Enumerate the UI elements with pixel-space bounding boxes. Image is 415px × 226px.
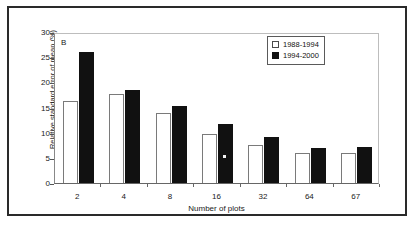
legend-swatch-filled-square-icon <box>272 52 279 59</box>
y-tick-label: 15 <box>26 105 50 113</box>
bar <box>218 124 233 183</box>
bar <box>248 145 263 183</box>
legend-item-label: 1988-1994 <box>283 40 319 49</box>
x-tick-label: 32 <box>258 192 267 201</box>
x-tick-label: 67 <box>351 192 360 201</box>
x-tick-mark <box>240 184 241 187</box>
x-tick-label: 8 <box>168 192 172 201</box>
y-tick-label: 0 <box>26 180 50 188</box>
bar <box>63 101 78 183</box>
x-tick-label: 64 <box>305 192 314 201</box>
bar <box>109 94 124 183</box>
x-tick-mark <box>379 184 380 187</box>
y-axis: Relative standard error of mean (%) 0510… <box>23 33 50 184</box>
bar <box>79 52 94 183</box>
x-tick-label: 4 <box>121 192 125 201</box>
bar <box>202 134 217 183</box>
y-tick-label: 10 <box>26 130 50 138</box>
x-tick-mark <box>333 184 334 187</box>
figure-frame: Relative standard error of mean (%) 0510… <box>7 6 407 216</box>
figure-canvas: Relative standard error of mean (%) 0510… <box>9 8 405 214</box>
bar <box>156 113 171 183</box>
y-tick-label: 20 <box>26 79 50 87</box>
panel-label: B <box>61 38 67 47</box>
legend-item: 1994-2000 <box>272 50 319 61</box>
x-tick-mark <box>100 184 101 187</box>
y-tick-label: 25 <box>26 54 50 62</box>
bar <box>341 153 356 183</box>
x-tick-mark <box>193 184 194 187</box>
y-tick-label: 30 <box>26 29 50 37</box>
x-tick-mark <box>286 184 287 187</box>
bar <box>311 148 326 183</box>
legend: 1988-1994 1994-2000 <box>267 36 325 65</box>
x-tick-mark <box>147 184 148 187</box>
x-tick-label: 2 <box>75 192 79 201</box>
plot-area <box>54 33 379 184</box>
bar <box>264 137 279 183</box>
legend-item-label: 1994-2000 <box>283 51 319 60</box>
y-tick-label: 5 <box>26 155 50 163</box>
scan-artifact <box>223 155 226 158</box>
bar <box>172 106 187 183</box>
bar <box>125 90 140 183</box>
bar <box>295 153 310 183</box>
legend-swatch-open-square-icon <box>272 41 279 48</box>
legend-item: 1988-1994 <box>272 39 319 50</box>
x-tick-label: 16 <box>212 192 221 201</box>
bar <box>357 147 372 183</box>
x-axis-title: Number of plots <box>54 204 379 213</box>
